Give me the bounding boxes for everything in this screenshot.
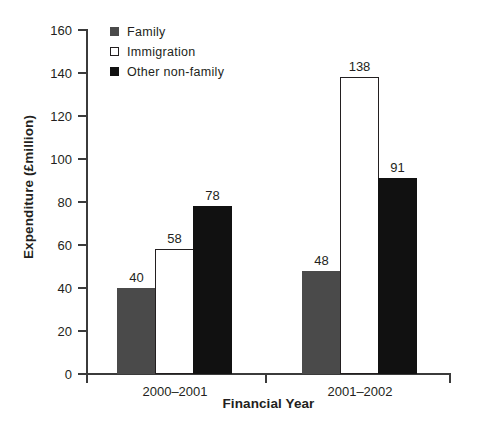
bar-immigration	[340, 77, 379, 374]
bar-family	[117, 288, 156, 374]
y-axis-tick	[78, 201, 87, 203]
y-axis-tick	[78, 29, 87, 31]
x-axis-tick-left	[86, 374, 88, 383]
bar-value-label: 40	[129, 270, 143, 285]
bar-value-label: 48	[314, 253, 328, 268]
bar-value-label: 58	[167, 231, 181, 246]
y-axis-tick-label: 100	[0, 152, 72, 167]
y-axis-tick-label: 120	[0, 109, 72, 124]
y-axis-tick-label: 80	[0, 195, 72, 210]
legend-item-other-non-family: Other non-family	[110, 62, 224, 81]
bar-other-non-family	[378, 178, 417, 374]
legend-item-immigration: Immigration	[110, 42, 224, 61]
bar-chart: Expenditure (£million) 02040608010012014…	[0, 0, 478, 427]
bar-other-non-family	[193, 206, 232, 374]
legend-label-other-non-family: Other non-family	[127, 65, 224, 79]
bar-value-label: 138	[349, 59, 371, 74]
legend: Family Immigration Other non-family	[110, 22, 224, 82]
immigration-swatch-icon	[110, 47, 119, 56]
x-axis-title: Financial Year	[87, 396, 450, 411]
y-axis-tick-label: 140	[0, 66, 72, 81]
bar-family	[302, 271, 341, 374]
y-axis-tick-label: 160	[0, 23, 72, 38]
y-axis-tick	[78, 287, 87, 289]
x-axis-tick-middle	[265, 374, 267, 383]
other-non-family-swatch-icon	[110, 67, 119, 76]
bar-value-label: 91	[390, 160, 404, 175]
bar-value-label: 78	[205, 188, 219, 203]
legend-label-family: Family	[127, 25, 166, 39]
legend-label-immigration: Immigration	[127, 45, 196, 59]
y-axis-tick	[78, 244, 87, 246]
y-axis-tick	[78, 115, 87, 117]
x-axis-tick-right	[449, 374, 451, 383]
y-axis-tick	[78, 72, 87, 74]
y-axis-tick-label: 0	[0, 367, 72, 382]
y-axis-tick	[78, 158, 87, 160]
y-axis-tick-label: 20	[0, 324, 72, 339]
y-axis-title: Expenditure (£million)	[14, 0, 42, 374]
y-axis-tick-label: 60	[0, 238, 72, 253]
bar-immigration	[155, 249, 194, 374]
y-axis-tick-label: 40	[0, 281, 72, 296]
family-swatch-icon	[110, 27, 119, 36]
y-axis-tick	[78, 330, 87, 332]
legend-item-family: Family	[110, 22, 224, 41]
